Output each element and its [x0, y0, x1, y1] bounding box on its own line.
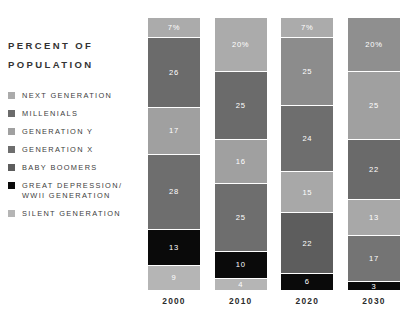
bar-column-2000: 7%2617281392000 — [148, 18, 200, 312]
legend-item-label: BABY BOOMERS — [22, 163, 98, 173]
bar-segment[interactable]: 26 — [148, 38, 200, 108]
bar-segment[interactable]: 17 — [348, 236, 400, 282]
legend-item-millenials[interactable]: MILLENIALS — [8, 109, 142, 119]
x-axis-label-2010: 2010 — [215, 290, 267, 312]
bar-segment[interactable]: 4 — [215, 279, 267, 290]
x-axis-label-2020: 2020 — [281, 290, 333, 312]
legend-swatch-icon — [8, 210, 15, 217]
bar-segment[interactable]: 24 — [281, 106, 333, 172]
bar-segment-value: 9 — [172, 273, 177, 282]
bar-segment-value: 17 — [169, 126, 179, 135]
bar-segment-value: 20% — [232, 40, 249, 49]
stacked-bar-chart: 7%261728139200020%25162510420107%2524152… — [148, 18, 400, 312]
legend-item-label: GENERATION Y — [22, 127, 93, 137]
page-title-line2: POPULATION — [8, 55, 142, 74]
legend-swatch-icon — [8, 92, 15, 99]
bar-segment-value: 13 — [369, 213, 379, 222]
legend-item-generation-x[interactable]: GENERATION X — [8, 145, 142, 155]
bar-segment-value: 6 — [305, 277, 310, 286]
legend-item-label: SILENT GENERATION — [22, 209, 121, 219]
legend-item-silent-generation[interactable]: SILENT GENERATION — [8, 209, 142, 219]
bar-segment-value: 28 — [169, 187, 179, 196]
bar-segment[interactable]: 25 — [215, 72, 267, 140]
bar-segment[interactable]: 15 — [281, 172, 333, 213]
legend-item-label: GREAT DEPRESSION/ WWII GENERATION — [22, 181, 122, 200]
bar-segment-value: 3 — [372, 282, 377, 290]
bar-stack: 7%261728139 — [148, 18, 200, 290]
bar-segment-value: 17 — [369, 254, 379, 263]
bar-segment[interactable]: 7% — [281, 18, 333, 38]
legend-item-great-depression-wwii[interactable]: GREAT DEPRESSION/ WWII GENERATION — [8, 181, 142, 200]
bar-segment[interactable]: 20% — [215, 18, 267, 72]
x-axis-label-2030: 2030 — [348, 290, 400, 312]
legend-swatch-icon — [8, 110, 15, 117]
bar-segment-value: 13 — [169, 243, 179, 252]
legend-swatch-icon — [8, 128, 15, 135]
bar-segment[interactable]: 10 — [215, 252, 267, 280]
bar-segment-value: 22 — [369, 165, 379, 174]
chart-page: PERCENT OF POPULATION NEXT GENERATIONMIL… — [0, 0, 408, 335]
bar-stack: 20%251625104 — [215, 18, 267, 290]
bar-segment-value: 22 — [302, 239, 312, 248]
bar-stack: 7%252415226 — [281, 18, 333, 290]
bar-segment[interactable]: 17 — [148, 108, 200, 154]
bar-segment[interactable]: 28 — [148, 155, 200, 231]
legend-item-generation-y[interactable]: GENERATION Y — [8, 127, 142, 137]
bar-column-2010: 20%2516251042010 — [215, 18, 267, 312]
legend-item-label: NEXT GENERATION — [22, 91, 112, 101]
bar-segment[interactable]: 25 — [281, 38, 333, 106]
bar-stack: 20%252213173 — [348, 18, 400, 290]
legend-item-next-generation[interactable]: NEXT GENERATION — [8, 91, 142, 101]
bar-segment-value: 7% — [301, 23, 313, 32]
bar-segment-value: 4 — [238, 280, 243, 289]
bar-segment-value: 7% — [168, 23, 180, 32]
bar-segment[interactable]: 13 — [148, 230, 200, 266]
bar-segment[interactable]: 16 — [215, 140, 267, 184]
legend-swatch-icon — [8, 182, 15, 189]
legend-swatch-icon — [8, 146, 15, 153]
legend-item-label: GENERATION X — [22, 145, 94, 155]
legend-item-label: MILLENIALS — [22, 109, 78, 119]
bar-segment[interactable]: 22 — [281, 213, 333, 273]
bar-segment-value: 25 — [236, 213, 246, 222]
bar-segment[interactable]: 20% — [348, 18, 400, 72]
bar-segment-value: 16 — [236, 157, 246, 166]
bar-segment-value: 10 — [236, 260, 246, 269]
x-axis-label-2000: 2000 — [148, 290, 200, 312]
bar-segment[interactable]: 9 — [148, 266, 200, 290]
bar-segment-value: 25 — [369, 101, 379, 110]
bar-segment[interactable]: 13 — [348, 200, 400, 236]
bar-segment-value: 24 — [302, 134, 312, 143]
bar-segment-value: 20% — [365, 40, 382, 49]
bar-segment-value: 26 — [169, 68, 179, 77]
bar-segment-value: 25 — [236, 101, 246, 110]
bar-segment[interactable]: 22 — [348, 140, 400, 200]
bar-segment[interactable]: 6 — [281, 274, 333, 290]
legend-list: NEXT GENERATIONMILLENIALSGENERATION YGEN… — [8, 91, 142, 218]
bar-segment-value: 25 — [302, 67, 312, 76]
legend-swatch-icon — [8, 164, 15, 171]
bar-segment[interactable]: 3 — [348, 282, 400, 290]
bar-segment[interactable]: 25 — [215, 184, 267, 252]
bar-segment[interactable]: 7% — [148, 18, 200, 38]
bar-column-2030: 20%2522131732030 — [348, 18, 400, 312]
legend-item-baby-boomers[interactable]: BABY BOOMERS — [8, 163, 142, 173]
bar-segment-value: 15 — [302, 188, 312, 197]
bar-column-2020: 7%2524152262020 — [281, 18, 333, 312]
page-title-line1: PERCENT OF — [8, 36, 142, 55]
legend-panel: PERCENT OF POPULATION NEXT GENERATIONMIL… — [8, 36, 142, 227]
bar-segment[interactable]: 25 — [348, 72, 400, 140]
